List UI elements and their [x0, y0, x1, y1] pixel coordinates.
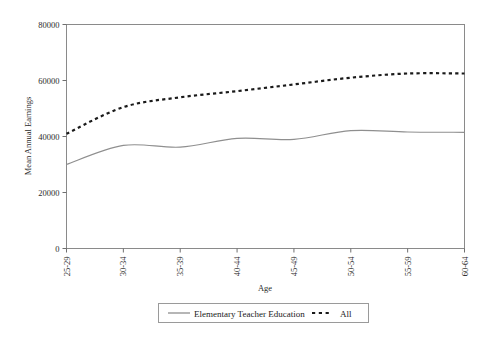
y-axis: 020000400006000080000	[38, 20, 66, 254]
legend-item-label-elementary-teacher-education: Elementary Teacher Education	[194, 309, 305, 319]
x-axis-tick-label: 55-59	[403, 257, 413, 277]
x-axis-tick-label: 60-64	[460, 256, 470, 277]
series-line-all	[67, 73, 465, 134]
y-axis-tick-label: 40000	[38, 132, 59, 142]
legend: Elementary Teacher Education All	[159, 304, 369, 323]
x-axis: 25-2930-3435-3940-4445-4950-5455-5960-64	[62, 249, 470, 277]
x-axis-tick-label: 35-39	[175, 257, 185, 277]
x-axis-title: Age	[258, 283, 272, 293]
x-axis-tick-label: 25-29	[62, 257, 72, 277]
x-axis-tick-label: 30-34	[118, 256, 128, 277]
legend-item-label-all: All	[340, 309, 352, 319]
series-line-elementary-teacher-education	[67, 130, 465, 164]
x-axis-tick-label: 45-49	[289, 257, 299, 277]
x-axis-tick-label: 50-54	[346, 256, 356, 277]
x-axis-tick-label: 40-44	[232, 256, 242, 277]
y-axis-tick-label: 20000	[38, 188, 59, 198]
y-axis-tick-label: 60000	[38, 76, 59, 86]
y-axis-tick-label: 0	[55, 244, 59, 254]
y-axis-title: Mean Annual Earnings	[23, 97, 33, 175]
y-axis-tick-label: 80000	[38, 20, 59, 30]
plot-frame	[67, 25, 465, 249]
line-chart: 020000400006000080000 25-2930-3435-3940-…	[0, 0, 487, 348]
chart-container: 020000400006000080000 25-2930-3435-3940-…	[0, 0, 487, 348]
